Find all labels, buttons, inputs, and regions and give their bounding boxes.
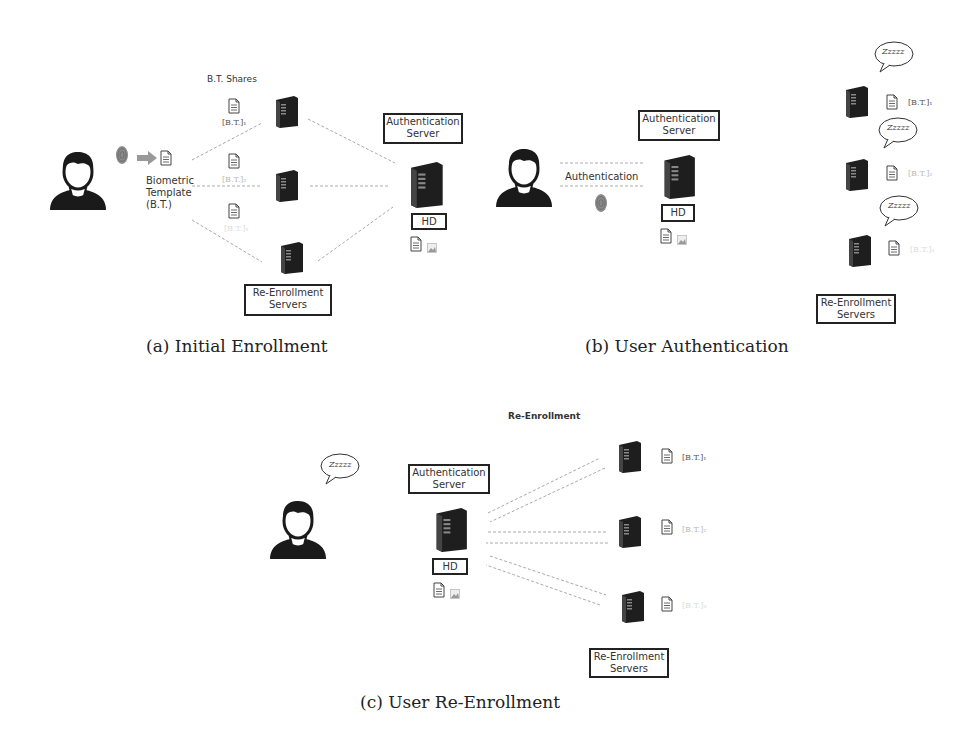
user-icon — [48, 148, 108, 212]
user-icon — [494, 145, 554, 209]
share-2-document-icon — [886, 165, 898, 181]
reenrollment-server-1-icon — [272, 96, 298, 128]
image-icon — [677, 235, 687, 245]
share-1-label: [B.T.]₁ — [908, 98, 933, 107]
share-1-document-icon — [228, 98, 240, 114]
reenrollment-server-2-icon — [272, 170, 298, 202]
bt-shares-title: B.T. Shares — [207, 73, 257, 85]
reenrollment-servers-box: Re-Enrollment Servers — [816, 294, 896, 324]
zzz-label: Zzzzz — [888, 201, 910, 210]
share-1-label: [B.T.]₁ — [222, 118, 247, 127]
authentication-server-icon — [427, 508, 471, 552]
share-1-document-icon — [661, 448, 673, 464]
caption-a: (a) Initial Enrollment — [146, 336, 328, 356]
reenrollment-servers-box: Re-Enrollment Servers — [244, 284, 332, 316]
speech-bubble-icon — [876, 116, 918, 150]
share-2-label: [B.T.]₂ — [682, 525, 707, 534]
share-3-document-icon — [888, 240, 900, 256]
reenrollment-server-2-icon — [838, 159, 872, 191]
stored-template-document-icon — [433, 582, 445, 598]
speech-bubble-icon — [877, 194, 919, 228]
zzz-label: Zzzzz — [887, 123, 909, 132]
share-3-label: [B.T.]₃ — [682, 601, 707, 610]
caption-c: (c) User Re-Enrollment — [360, 692, 560, 712]
reenrollment-title: Re-Enrollment — [508, 410, 580, 422]
share-2-label: [B.T.]₂ — [908, 169, 933, 178]
image-icon — [450, 589, 460, 599]
connection-lines — [0, 0, 977, 729]
stored-template-document-icon — [660, 228, 672, 244]
hd-box: HD — [411, 213, 447, 230]
biometric-template-label: Biometric Template (B.T.) — [146, 175, 194, 211]
fingerprint-icon — [594, 193, 608, 213]
authentication-server-icon — [656, 155, 698, 199]
reenrollment-server-2-icon — [612, 516, 644, 548]
fingerprint-icon — [115, 145, 129, 165]
share-2-label: [B.T.]₂ — [222, 175, 247, 184]
zzz-label: Zzzzz — [329, 460, 351, 469]
user-icon — [268, 497, 328, 561]
share-2-document-icon — [661, 519, 673, 535]
hd-box: HD — [661, 204, 695, 222]
share-3-label: [B.T.]₃ — [910, 245, 935, 254]
reenrollment-server-1-icon — [838, 86, 872, 118]
caption-b: (b) User Authentication — [585, 336, 789, 356]
share-3-document-icon — [228, 203, 240, 219]
reenrollment-server-3-icon — [615, 591, 647, 623]
share-3-label: [B.T.]₃ — [224, 224, 249, 233]
authentication-link-label: Authentication — [565, 171, 638, 183]
authentication-server-box: Authentication Server — [383, 113, 463, 144]
stored-template-document-icon — [410, 236, 422, 252]
share-1-label: [B.T.]₁ — [682, 453, 707, 462]
hd-box: HD — [432, 558, 468, 575]
image-icon — [427, 243, 437, 253]
reenrollment-servers-box: Re-Enrollment Servers — [589, 648, 669, 678]
authentication-server-icon — [402, 162, 446, 208]
share-2-document-icon — [228, 153, 240, 169]
speech-bubble-icon — [872, 40, 914, 74]
authentication-server-box: Authentication Server — [638, 110, 720, 141]
share-3-document-icon — [661, 596, 673, 612]
reenrollment-server-3-icon — [841, 235, 875, 267]
speech-bubble-icon — [318, 452, 360, 486]
share-1-document-icon — [886, 94, 898, 110]
authentication-server-box: Authentication Server — [408, 464, 490, 494]
arrow-icon — [137, 151, 157, 165]
reenrollment-server-3-icon — [277, 242, 303, 274]
document-icon — [160, 150, 172, 166]
zzz-label: Zzzzz — [882, 47, 904, 56]
reenrollment-server-1-icon — [612, 441, 644, 473]
